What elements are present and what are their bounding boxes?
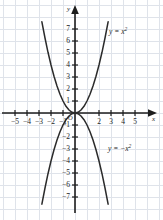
x-axis-tick-label: 2 — [93, 118, 105, 126]
y-axis-tick-label: 3 — [57, 73, 70, 81]
x-axis-tick-label: 3 — [105, 118, 117, 126]
x-axis-label: x — [152, 115, 155, 123]
y-axis-label: y — [67, 5, 70, 13]
y-axis-tick-label: −4 — [57, 157, 70, 165]
annotation-0-text: y = x — [109, 27, 124, 36]
graph-figure: −5−4−3−2−123457654321−1−2−3−4−5−6−7 y x … — [0, 0, 163, 220]
y-axis-tick-label: 2 — [57, 85, 70, 93]
y-axis-tick-label: −5 — [57, 169, 70, 177]
y-axis-tick-label: −3 — [57, 145, 70, 153]
annotation-y-equals-negative-x-squared: y = −x2 — [108, 144, 131, 153]
x-axis-tick-label: −2 — [45, 118, 57, 126]
x-axis-tick-label: 5 — [129, 118, 141, 126]
y-axis-tick-label: −6 — [57, 181, 70, 189]
annotation-0-exponent: 2 — [124, 26, 127, 32]
y-axis-tick-label: −7 — [57, 193, 70, 201]
y-axis-tick-label: 1 — [57, 97, 70, 105]
y-axis-tick-label: −2 — [57, 133, 70, 141]
y-axis-tick-label: 7 — [57, 25, 70, 33]
annotation-1-exponent: 2 — [129, 143, 132, 149]
x-axis-tick-label: 4 — [117, 118, 129, 126]
curve-y-equals-negative-x-squared — [42, 113, 108, 204]
curves-layer — [0, 0, 163, 220]
y-axis-tick-label: 6 — [57, 37, 70, 45]
x-axis-tick-label: −5 — [9, 118, 21, 126]
y-axis-tick-label: 5 — [57, 49, 70, 57]
annotation-y-equals-x-squared: y = x2 — [109, 27, 127, 36]
annotation-1-text: y = −x — [108, 144, 129, 153]
y-axis-tick-label: 4 — [57, 61, 70, 69]
x-axis-tick-label: −3 — [33, 118, 45, 126]
curve-y-equals-x-squared — [42, 22, 108, 113]
origin-label: O — [68, 114, 73, 121]
x-axis-tick-label: −4 — [21, 118, 33, 126]
y-axis-tick-label: −1 — [57, 121, 70, 129]
